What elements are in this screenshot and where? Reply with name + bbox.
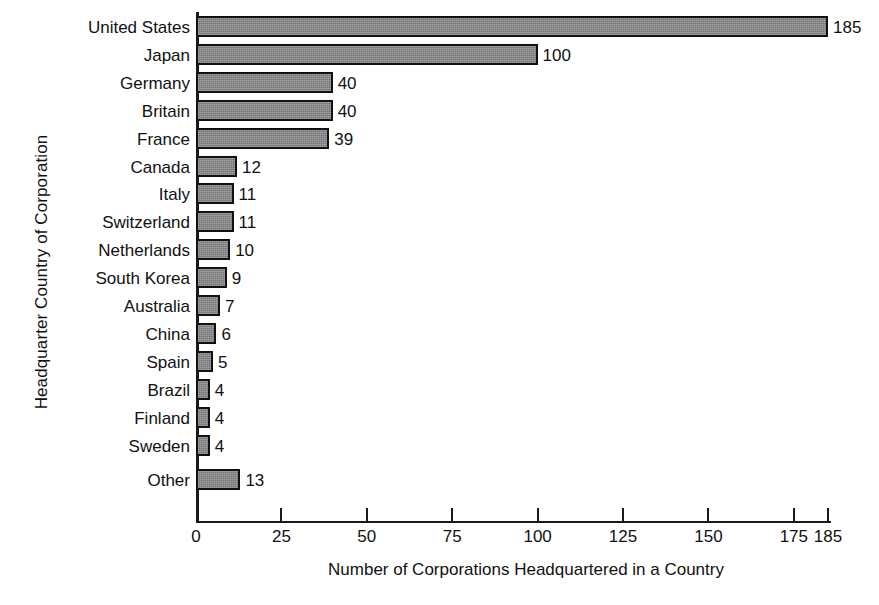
category-label: United States [0,17,190,38]
category-label: France [0,129,190,150]
bar-value-label: 10 [235,240,254,261]
category-label: Other [0,470,190,491]
x-axis-tick-label: 0 [191,527,200,547]
bar [196,239,230,260]
bar-value-label: 6 [221,324,230,345]
x-axis-tick [827,508,829,522]
category-label: Switzerland [0,212,190,233]
x-axis-tick [622,508,624,522]
category-label: Spain [0,352,190,373]
bar-value-label: 7 [225,296,234,317]
category-label: Britain [0,101,190,122]
x-axis-tick [280,508,282,522]
bar [196,469,240,490]
bar [196,72,333,93]
x-axis-tick-label: 150 [694,527,722,547]
x-axis-tick-label: 25 [272,527,291,547]
category-label-column: United StatesJapanGermanyBritainFranceCa… [0,0,190,525]
category-label: Canada [0,157,190,178]
bar [196,435,210,456]
category-label: China [0,324,190,345]
bar [196,128,329,149]
x-axis-tick-label: 75 [443,527,462,547]
bar-value-label: 12 [242,157,261,178]
x-axis-tick-label: 175 [780,527,808,547]
plot-area: 1851004040391211111097654441302550751001… [196,0,856,525]
x-axis-tick-label: 100 [523,527,551,547]
bar-value-label: 40 [338,73,357,94]
x-axis-tick [366,508,368,522]
bar [196,100,333,121]
x-axis-tick [793,508,795,522]
bar-value-label: 11 [239,212,257,233]
bar [196,44,538,65]
category-label: Italy [0,184,190,205]
x-axis-title: Number of Corporations Headquartered in … [196,560,856,580]
bar-value-label: 5 [218,352,227,373]
x-axis-tick [451,508,453,522]
x-axis-tick-label: 185 [814,527,842,547]
bar [196,323,216,344]
bar-value-label: 100 [543,45,571,66]
bar-value-label: 13 [245,470,264,491]
bar-value-label: 9 [232,268,241,289]
bar-value-label: 4 [215,380,224,401]
bar-value-label: 39 [334,129,353,150]
bar-value-label: 4 [215,436,224,457]
x-axis-tick-label: 50 [357,527,376,547]
category-label: Japan [0,45,190,66]
x-axis-line [196,521,831,523]
x-axis-tick [537,508,539,522]
category-label: Netherlands [0,240,190,261]
bar [196,379,210,400]
x-axis-tick [707,508,709,522]
category-label: Brazil [0,380,190,401]
bar-chart: Headquarter Country of Corporation Unite… [0,0,879,605]
bar [196,407,210,428]
category-label: Sweden [0,436,190,457]
bar [196,156,237,177]
bar [196,183,234,204]
category-label: Australia [0,296,190,317]
x-axis-tick-label: 125 [609,527,637,547]
bar [196,295,220,316]
category-label: South Korea [0,268,190,289]
bar [196,211,234,232]
category-label: Finland [0,408,190,429]
bar-value-label: 40 [338,101,357,122]
category-label: Germany [0,73,190,94]
bar [196,16,828,37]
bar-value-label: 11 [239,184,257,205]
bar [196,351,213,372]
bar [196,267,227,288]
bar-value-label: 4 [215,408,224,429]
bar-value-label: 185 [833,17,861,38]
